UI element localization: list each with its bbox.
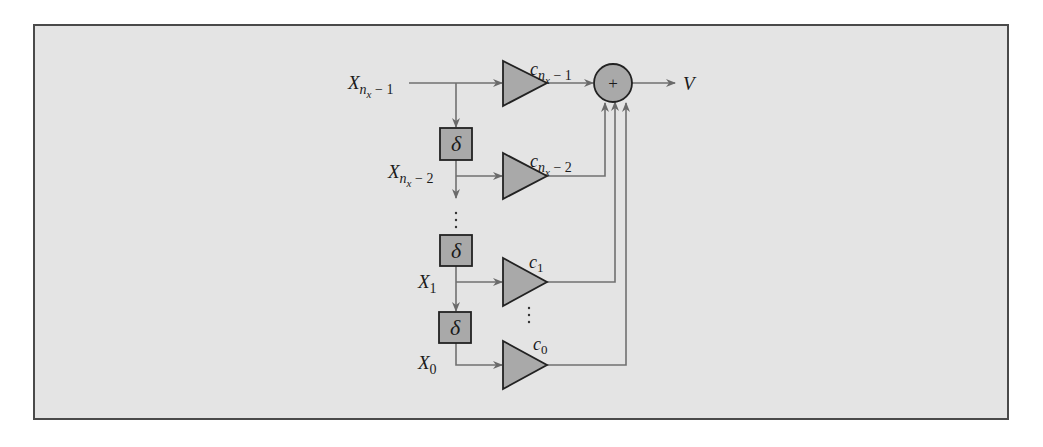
label-c-0: c0 (533, 334, 548, 357)
delay-symbol: δ (451, 131, 462, 156)
label-x-1: X1 (417, 271, 437, 296)
delay-symbol: δ (451, 238, 462, 263)
output-label: V (683, 73, 697, 94)
label-x-nx-minus-2: Xnx − 2 (387, 161, 433, 189)
summer-plus: + (608, 74, 618, 93)
delay-symbol: δ (450, 315, 461, 340)
fir-filter-diagram: δ δ δ + V Xnx − 1 Xnx − 2 X1 X0 cnx − 1 … (0, 0, 1043, 447)
label-c-1: c1 (529, 252, 544, 275)
label-x-nx-minus-1: Xnx − 1 (347, 72, 393, 100)
label-x-0: X0 (417, 352, 437, 377)
